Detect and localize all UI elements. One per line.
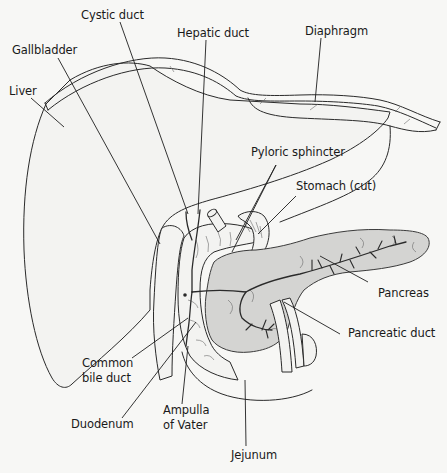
- label-hepatic-duct: Hepatic duct: [177, 27, 249, 40]
- label-ampulla-line1: Ampulla: [163, 404, 209, 417]
- diagram-artwork: [0, 0, 447, 473]
- label-duodenum: Duodenum: [71, 418, 134, 431]
- label-pyloric-sphincter: Pyloric sphincter: [251, 146, 345, 159]
- label-stomach-cut: Stomach (cut): [296, 180, 376, 193]
- label-common-bile-duct-line1: Common: [82, 357, 133, 370]
- label-jejunum: Jejunum: [231, 449, 277, 462]
- label-pancreas: Pancreas: [378, 287, 429, 300]
- label-gallbladder: Gallbladder: [12, 44, 77, 57]
- label-liver: Liver: [9, 85, 37, 98]
- label-diaphragm: Diaphragm: [305, 25, 368, 38]
- leader-stomach: [258, 196, 296, 234]
- label-common-bile-duct-line2: bile duct: [82, 372, 131, 385]
- label-ampulla-line2: of Vater: [163, 419, 207, 432]
- jejunum-bulge: [302, 334, 316, 366]
- label-pancreatic-duct: Pancreatic duct: [348, 327, 435, 340]
- label-cystic-duct: Cystic duct: [81, 9, 144, 22]
- leader-diaphragm: [315, 38, 321, 102]
- leader-jejunum: [245, 380, 246, 446]
- anatomy-diagram: Cystic duct Hepatic duct Diaphragm Gallb…: [0, 0, 447, 473]
